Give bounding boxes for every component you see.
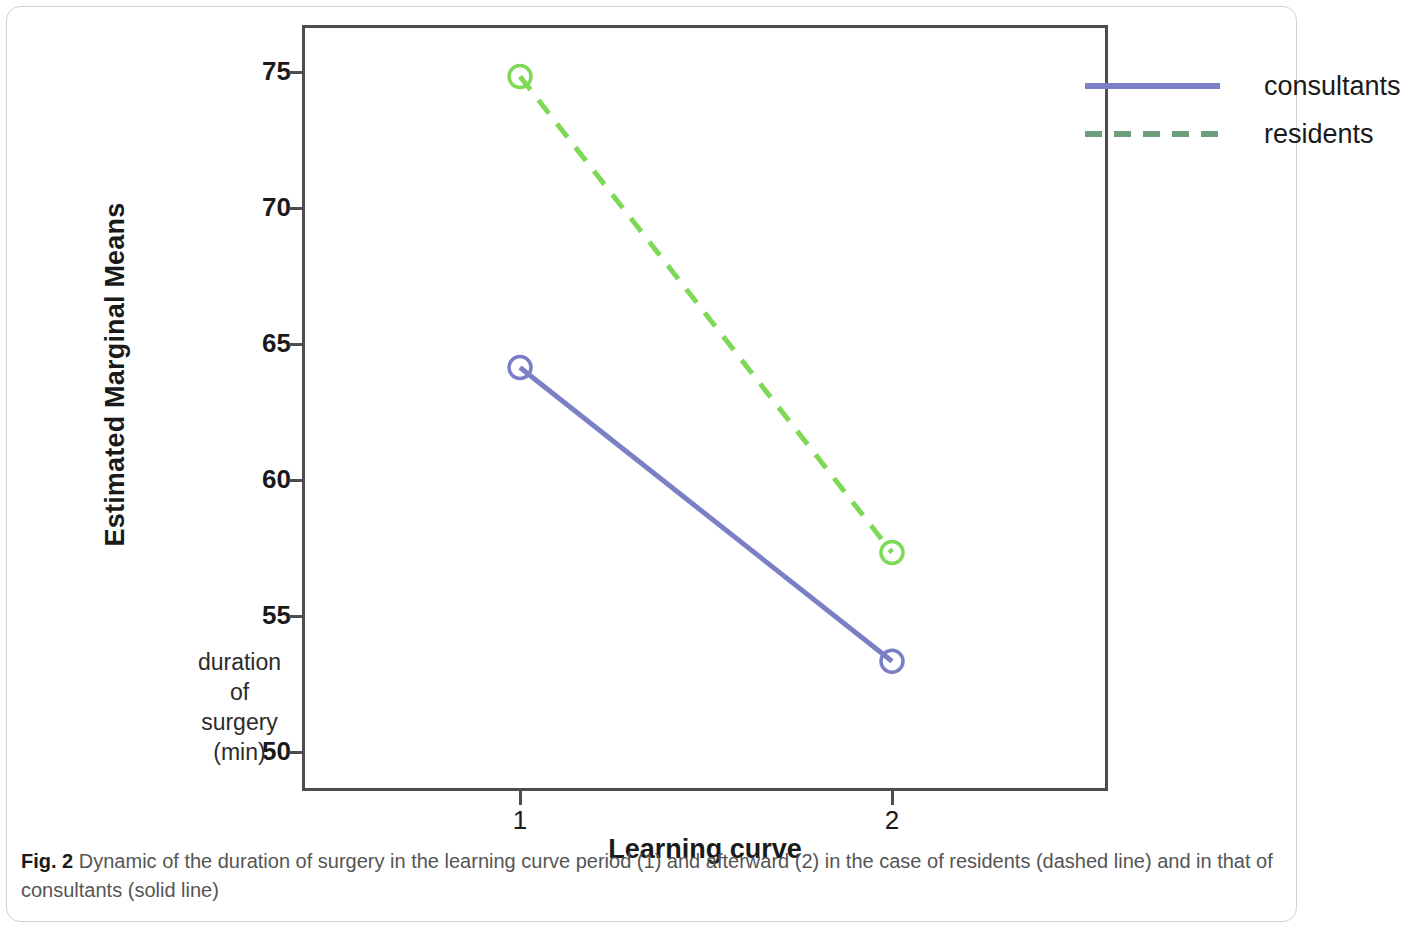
y-tick-label: 60 [231, 464, 291, 495]
y-tick-label: 55 [231, 600, 291, 631]
plot-series-canvas [305, 28, 1105, 788]
series-line-residents [520, 76, 892, 552]
figure-number: Fig. 2 [21, 850, 73, 872]
series-line-consultants [520, 367, 892, 661]
figure-caption: Fig. 2 Dynamic of the duration of surger… [21, 847, 1283, 905]
axis-note-line-1: duration [187, 647, 292, 677]
legend-label-residents: residents [1264, 119, 1374, 150]
y-tick-mark [289, 343, 302, 346]
y-tick-label: 65 [231, 328, 291, 359]
y-axis-unit-note: duration of surgery (min) [187, 647, 292, 767]
axis-note-line-4: (min) [187, 737, 292, 767]
x-tick-mark [891, 791, 894, 805]
y-tick-mark [289, 71, 302, 74]
y-tick-mark [289, 207, 302, 210]
plot-frame: consultants residents [302, 25, 1108, 791]
legend-swatch-consultants-icon [1085, 83, 1220, 89]
y-axis-title: Estimated Marginal Means [100, 155, 131, 595]
legend-item-residents: residents [1085, 110, 1395, 158]
y-tick-label: 75 [231, 56, 291, 87]
legend-item-consultants: consultants [1085, 62, 1395, 110]
axis-note-line-3: surgery [187, 707, 292, 737]
y-tick-mark [289, 479, 302, 482]
y-tick-label: 70 [231, 192, 291, 223]
x-tick-label: 2 [862, 805, 922, 836]
legend-swatch-residents-icon [1085, 131, 1220, 137]
axis-note-line-2: of [187, 677, 292, 707]
y-tick-mark [289, 615, 302, 618]
figure-card: Estimated Marginal Means 75 70 65 60 55 … [6, 6, 1297, 922]
x-tick-mark [519, 791, 522, 805]
x-tick-label: 1 [490, 805, 550, 836]
chart-area: Estimated Marginal Means 75 70 65 60 55 … [7, 7, 1298, 843]
legend: consultants residents [1085, 62, 1395, 158]
figure-caption-text: Dynamic of the duration of surgery in th… [21, 850, 1273, 901]
legend-label-consultants: consultants [1264, 71, 1401, 102]
